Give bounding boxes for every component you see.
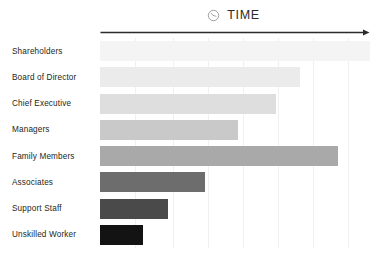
bar-row <box>100 120 370 140</box>
bar <box>100 94 276 114</box>
bar <box>100 67 300 87</box>
bar <box>100 172 205 192</box>
time-axis-arrow <box>100 28 370 37</box>
bar <box>100 41 370 61</box>
category-label: Support Staff <box>12 199 62 219</box>
category-label: Chief Executive <box>12 94 71 114</box>
bar-row <box>100 172 370 192</box>
category-label: Board of Director <box>12 67 76 87</box>
axis-title: TIME <box>100 6 367 25</box>
bar-series <box>100 38 370 248</box>
bar <box>100 225 143 245</box>
clock-icon <box>207 9 220 22</box>
plot-area <box>100 38 370 248</box>
bar-row <box>100 146 370 166</box>
category-label: Family Members <box>12 146 75 166</box>
bar <box>100 199 168 219</box>
category-label: Unskilled Worker <box>12 225 76 245</box>
bar <box>100 120 238 140</box>
category-label: Managers <box>12 120 50 140</box>
time-bar-chart: TIME ShareholdersBoard of DirectorChief … <box>0 0 384 261</box>
category-label: Shareholders <box>12 41 63 61</box>
bar-row <box>100 41 370 61</box>
axis-title-label: TIME <box>227 9 259 22</box>
category-label: Associates <box>12 172 53 192</box>
bar-row <box>100 94 370 114</box>
bar-row <box>100 225 370 245</box>
bar-row <box>100 67 370 87</box>
category-label-column: ShareholdersBoard of DirectorChief Execu… <box>0 38 96 248</box>
bar <box>100 146 338 166</box>
bar-row <box>100 199 370 219</box>
